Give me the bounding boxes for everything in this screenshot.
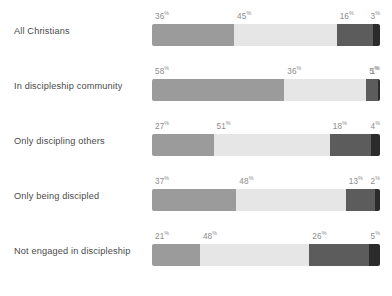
bar-segment bbox=[200, 244, 309, 266]
percent-sign: % bbox=[322, 230, 327, 236]
bar-row: In discipleship community58%36%5%1% bbox=[0, 63, 392, 103]
segment-value-number: 45 bbox=[237, 12, 246, 21]
segment-value-label: 45% bbox=[237, 10, 251, 21]
percent-sign: % bbox=[164, 10, 169, 16]
bar-segment bbox=[236, 189, 345, 211]
segment-value-label: 48% bbox=[239, 175, 253, 186]
segment-value-label: 21% bbox=[155, 230, 169, 241]
segment-value-number: 13 bbox=[349, 177, 358, 186]
percent-sign: % bbox=[358, 175, 363, 181]
percent-sign: % bbox=[375, 175, 380, 181]
segment-value-number: 27 bbox=[155, 122, 164, 131]
percent-sign: % bbox=[164, 120, 169, 126]
segment-value-number: 37 bbox=[155, 177, 164, 186]
bar-track bbox=[152, 134, 380, 156]
segment-value-number: 16 bbox=[340, 12, 349, 21]
percent-sign: % bbox=[375, 230, 380, 236]
bar-segment bbox=[369, 244, 380, 266]
bar-row: Only being discipled37%48%13%2% bbox=[0, 173, 392, 213]
segment-value-number: 18 bbox=[333, 122, 342, 131]
segment-value-label: 2% bbox=[371, 175, 380, 186]
bar-segment bbox=[366, 79, 377, 101]
category-label: Only being discipled bbox=[0, 191, 138, 202]
segment-value-number: 48 bbox=[239, 177, 248, 186]
category-label: In discipleship community bbox=[0, 81, 138, 92]
segment-value-label: 51% bbox=[217, 120, 231, 131]
percent-sign: % bbox=[375, 65, 380, 71]
segment-value-label: 36% bbox=[155, 10, 169, 21]
value-label-track: 21%48%26%5% bbox=[152, 228, 380, 244]
percent-sign: % bbox=[212, 230, 217, 236]
stacked-bar-chart: All Christians36%45%16%3%In discipleship… bbox=[0, 0, 392, 296]
bar-segment bbox=[214, 134, 330, 156]
segment-value-number: 48 bbox=[203, 232, 212, 241]
percent-sign: % bbox=[297, 65, 302, 71]
percent-sign: % bbox=[349, 10, 354, 16]
bar-row: All Christians36%45%16%3% bbox=[0, 8, 392, 48]
segment-value-label: 16% bbox=[340, 10, 354, 21]
segment-value-label: 48% bbox=[203, 230, 217, 241]
percent-sign: % bbox=[226, 120, 231, 126]
bar-track bbox=[152, 79, 380, 101]
bar-segment bbox=[152, 134, 214, 156]
value-label-track: 36%45%16%3% bbox=[152, 8, 380, 24]
bar-segment bbox=[346, 189, 376, 211]
segment-value-label: 13% bbox=[349, 175, 363, 186]
segment-value-label: 4% bbox=[371, 120, 380, 131]
bar-segment bbox=[378, 79, 380, 101]
segment-value-label: 3% bbox=[371, 10, 380, 21]
segment-value-label: 37% bbox=[155, 175, 169, 186]
bar-track bbox=[152, 189, 380, 211]
segment-value-number: 51 bbox=[217, 122, 226, 131]
value-label-track: 58%36%5%1% bbox=[152, 63, 380, 79]
bar-row: Not engaged in discipleship21%48%26%5% bbox=[0, 228, 392, 268]
bar-segment bbox=[375, 189, 380, 211]
bar-segment bbox=[371, 134, 380, 156]
bar-segment bbox=[309, 244, 368, 266]
value-label-track: 27%51%18%4% bbox=[152, 118, 380, 134]
bar-segment bbox=[337, 24, 373, 46]
segment-value-label: 18% bbox=[333, 120, 347, 131]
bar-segment bbox=[284, 79, 366, 101]
bar-segment bbox=[152, 244, 200, 266]
value-label-track: 37%48%13%2% bbox=[152, 173, 380, 189]
bar-row: Only discipling others27%51%18%4% bbox=[0, 118, 392, 158]
segment-value-label: 5% bbox=[371, 230, 380, 241]
segment-value-number: 21 bbox=[155, 232, 164, 241]
percent-sign: % bbox=[164, 230, 169, 236]
segment-value-label: 36% bbox=[287, 65, 301, 76]
percent-sign: % bbox=[375, 10, 380, 16]
segment-value-number: 58 bbox=[155, 67, 164, 76]
segment-value-label: 1% bbox=[371, 65, 380, 76]
percent-sign: % bbox=[249, 175, 254, 181]
bar-track bbox=[152, 24, 380, 46]
category-label: Not engaged in discipleship bbox=[0, 246, 138, 257]
percent-sign: % bbox=[164, 65, 169, 71]
segment-value-label: 26% bbox=[312, 230, 326, 241]
category-label: All Christians bbox=[0, 26, 138, 37]
percent-sign: % bbox=[164, 175, 169, 181]
bar-segment bbox=[152, 79, 284, 101]
segment-value-label: 58% bbox=[155, 65, 169, 76]
bar-segment bbox=[152, 24, 234, 46]
bar-segment bbox=[373, 24, 380, 46]
percent-sign: % bbox=[375, 120, 380, 126]
bar-segment bbox=[330, 134, 371, 156]
segment-value-label: 27% bbox=[155, 120, 169, 131]
bar-track bbox=[152, 244, 380, 266]
segment-value-number: 36 bbox=[155, 12, 164, 21]
category-label: Only discipling others bbox=[0, 136, 138, 147]
segment-value-number: 36 bbox=[287, 67, 296, 76]
percent-sign: % bbox=[246, 10, 251, 16]
segment-value-number: 26 bbox=[312, 232, 321, 241]
percent-sign: % bbox=[342, 120, 347, 126]
bar-segment bbox=[234, 24, 337, 46]
bar-segment bbox=[152, 189, 236, 211]
